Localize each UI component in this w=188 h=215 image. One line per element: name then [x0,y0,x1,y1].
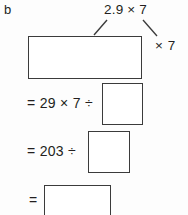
equation-line-3-text: = [29,193,37,207]
equation-line-1-text: = 29 × 7 ÷ [27,96,93,110]
leader-line-to-box [94,20,107,35]
part-label-b: b [4,3,11,16]
leader-line-to-multiplier [143,20,157,36]
answer-box-line-1[interactable] [102,83,143,125]
multiplier-callout-label: × 7 [155,39,176,53]
answer-box-line-0[interactable] [28,36,142,79]
answer-box-line-2[interactable] [88,131,130,173]
answer-box-line-3[interactable] [44,185,111,215]
worksheet-page: b 2.9 × 7 × 7 = 29 × 7 ÷ = 203 ÷ = [0,0,188,215]
equation-line-2-text: = 203 ÷ [27,144,76,158]
expression-callout-label: 2.9 × 7 [104,3,147,17]
